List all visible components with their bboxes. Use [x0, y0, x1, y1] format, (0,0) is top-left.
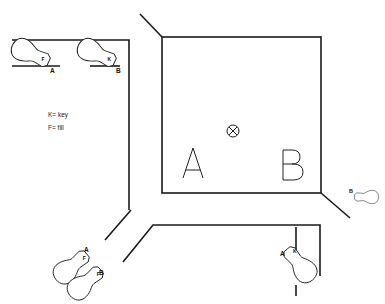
light-bottom-right-key: K: [278, 242, 321, 287]
stage-label-a: [183, 148, 203, 178]
light-bottom-right-position-label: A: [280, 250, 285, 257]
wall-left-diagonal: [105, 210, 131, 240]
light-top-right-position-label: B: [116, 67, 121, 74]
light-right-position-label: B: [349, 188, 353, 194]
light-top-left-position-label: A: [50, 67, 55, 74]
wall-top-left-diagonal: [140, 14, 162, 37]
legend-key: K= key: [48, 111, 68, 118]
legend-fill: F= fill: [48, 124, 64, 131]
light-right: [355, 190, 379, 203]
camera-position-icon: [227, 125, 239, 137]
light-bottom-left-a-position-label: A: [84, 246, 89, 253]
wall-bottom-right-diagonal: [321, 193, 350, 218]
svg-text:K: K: [107, 56, 111, 62]
svg-text:F: F: [41, 56, 44, 62]
lighting-diagram: F A K B B F A F B K A: [0, 0, 385, 304]
svg-text:K: K: [293, 248, 297, 254]
stage-label-b: [283, 150, 303, 180]
light-bottom-left-b-position-label: B: [99, 269, 104, 276]
svg-text:F: F: [83, 255, 86, 261]
